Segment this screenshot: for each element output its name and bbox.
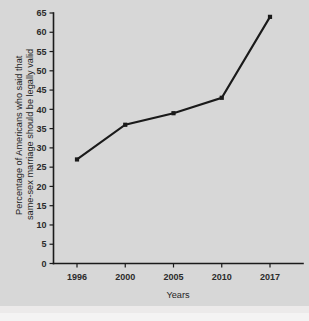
data-point-marker — [75, 157, 79, 161]
x-axis-title: Years — [166, 290, 190, 300]
y-axis-tick-label: 15 — [36, 201, 46, 211]
y-axis-tick-label: 20 — [36, 182, 46, 192]
data-point-marker — [123, 123, 127, 127]
y-axis-tick-label: 25 — [36, 162, 46, 172]
x-axis-tick-label: 1996 — [67, 272, 87, 282]
y-axis-tick-labels: 05101520253035404550556065 — [36, 8, 46, 269]
x-axis-tick-labels: 19962000200520102017 — [67, 272, 280, 282]
data-series-line — [77, 17, 270, 160]
y-axis-tick-label: 30 — [36, 143, 46, 153]
y-axis-tick-label: 40 — [36, 105, 46, 115]
x-axis-tick-label: 2005 — [163, 272, 183, 282]
y-axis-title: Percentage of Americans who said that sa… — [14, 49, 35, 220]
line-chart: 05101520253035404550556065 1996200020052… — [0, 0, 309, 321]
y-axis-tick-label: 35 — [36, 124, 46, 134]
y-axis-tick-label: 65 — [36, 8, 46, 18]
y-axis-tick-label: 10 — [36, 220, 46, 230]
y-axis-title-line1: Percentage of Americans who said that — [14, 55, 24, 215]
data-point-marker — [268, 15, 272, 19]
y-axis-tick-label: 50 — [36, 66, 46, 76]
y-axis-tick-label: 45 — [36, 85, 46, 95]
x-axis-tick-label: 2010 — [212, 272, 232, 282]
data-point-marker — [220, 96, 224, 100]
chart-figure: 05101520253035404550556065 1996200020052… — [0, 0, 309, 321]
y-axis-tick-label: 55 — [36, 47, 46, 57]
x-axis-tick-label: 2017 — [260, 272, 280, 282]
data-point-marker — [171, 111, 175, 115]
x-axis-tick-label: 2000 — [115, 272, 135, 282]
y-axis-tick-label: 0 — [41, 259, 46, 269]
y-axis-tick-label: 60 — [36, 27, 46, 37]
y-axis-title-line2: same-sex marriage should be legally vali… — [25, 49, 35, 220]
y-axis-tick-label: 5 — [41, 239, 46, 249]
